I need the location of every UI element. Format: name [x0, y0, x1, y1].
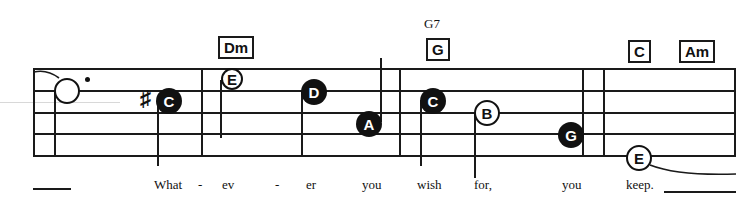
- note-stem: [220, 80, 222, 138]
- lyric-you: you: [362, 177, 382, 193]
- barline-4: [603, 68, 605, 157]
- sharp-icon: ♯: [140, 86, 151, 112]
- staff-line-1: [33, 68, 735, 70]
- barline-end: [734, 68, 736, 157]
- note-a: A: [356, 111, 382, 137]
- chord-am: Am: [679, 40, 715, 63]
- note-e-whole: E: [626, 145, 652, 171]
- note-stem: [582, 70, 584, 134]
- lyric-extender-end: [664, 191, 736, 193]
- lyric-for: for,: [474, 177, 492, 193]
- staff-line-4: [33, 133, 735, 135]
- chord-dm: Dm: [218, 36, 254, 59]
- lyric-er: er: [306, 177, 316, 193]
- lyric-extender-start: [33, 188, 71, 190]
- chord-g7: G7: [424, 16, 440, 32]
- chord-c: C: [628, 40, 651, 63]
- note-stem: [301, 92, 303, 156]
- tie-arc-start: [33, 66, 63, 80]
- note-e: E: [221, 68, 243, 90]
- chord-g: G: [426, 38, 450, 61]
- music-score: Dm G7 G C Am ♯ C E D A C B G E What - ev…: [0, 0, 748, 211]
- note-c: C: [420, 88, 446, 114]
- barline-2: [399, 68, 401, 157]
- note-stem: [380, 58, 382, 122]
- note-stem: [420, 100, 422, 166]
- augmentation-dot: [85, 77, 90, 82]
- note-g: G: [558, 122, 584, 148]
- note-dotted-half: [54, 78, 80, 104]
- note-c-sharp: C: [156, 88, 182, 114]
- note-stem: [54, 90, 56, 156]
- tie-arc-end: [648, 160, 740, 180]
- barline-1: [201, 68, 203, 157]
- staff-line-3: [33, 112, 735, 114]
- note-stem: [474, 112, 476, 178]
- note-d: D: [301, 79, 327, 105]
- lyric-wish: wish: [417, 177, 442, 193]
- lyric-you: you: [562, 177, 582, 193]
- lyric-hyphen: -: [275, 177, 279, 193]
- lyric-hyphen: -: [198, 177, 202, 193]
- lyric-what: What: [154, 177, 182, 193]
- staff-line-2: [33, 90, 735, 92]
- lyric-ev: ev: [222, 177, 234, 193]
- note-b: B: [474, 100, 500, 126]
- lyric-keep: keep.: [626, 177, 654, 193]
- barline-start: [33, 68, 35, 157]
